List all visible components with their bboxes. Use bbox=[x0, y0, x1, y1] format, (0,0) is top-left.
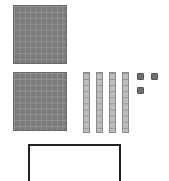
hundreds-flat-2 bbox=[13, 72, 67, 131]
ones-cube-3 bbox=[137, 87, 144, 94]
tens-rod-2 bbox=[96, 72, 103, 133]
answer-box[interactable] bbox=[28, 144, 121, 181]
hundreds-flat-1 bbox=[13, 5, 67, 64]
tens-rod-3 bbox=[109, 72, 116, 133]
ones-cube-2 bbox=[151, 73, 158, 80]
ones-cube-1 bbox=[137, 73, 144, 80]
tens-rod-1 bbox=[83, 72, 90, 133]
tens-rod-4 bbox=[122, 72, 129, 133]
